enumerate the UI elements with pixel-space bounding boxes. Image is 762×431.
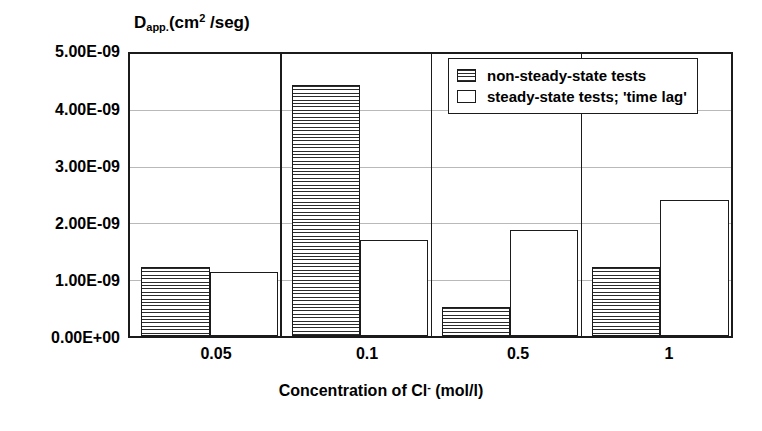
legend-item-non-steady-state: non-steady-state tests — [457, 65, 687, 86]
bar-0.5-steady-state — [510, 230, 578, 336]
y-axis-title-mid: (cm — [169, 13, 199, 32]
bar-0.1-steady-state — [360, 240, 428, 336]
y-tick-label-2: 2.00E-09 — [12, 215, 120, 233]
legend-item-steady-state: steady-state tests; 'time lag' — [457, 86, 687, 107]
category-separator — [431, 54, 433, 336]
bar-1-steady-state — [660, 200, 728, 336]
y-tick-label-3: 3.00E-09 — [12, 158, 120, 176]
x-axis-title: Concentration of Cl- (mol/l) — [0, 381, 762, 400]
bar-chart: Dapp.(cm2 /seg) 5.00E-09 4.00E-09 3.00E-… — [0, 0, 762, 431]
bar-0.1-non-steady-state — [292, 85, 360, 336]
y-tick-label-4: 4.00E-09 — [12, 101, 120, 119]
x-tick-label-0: 0.05 — [141, 345, 291, 363]
bar-0.5-non-steady-state — [442, 307, 510, 336]
x-axis-title-tail: (mol/l) — [431, 382, 483, 399]
y-axis-title-subscript: app. — [146, 21, 169, 33]
x-axis-title-lead: Concentration of Cl — [279, 382, 427, 399]
y-tick-label-0: 0.00E+00 — [12, 329, 120, 347]
bar-0.05-non-steady-state — [141, 267, 209, 336]
legend-swatch-plain-icon — [457, 90, 476, 103]
y-tick-label-5: 5.00E-09 — [12, 43, 120, 61]
y-axis-title-base: D — [134, 13, 146, 32]
legend-swatch-striped-icon — [457, 69, 476, 82]
legend: non-steady-state tests steady-state test… — [448, 58, 698, 114]
x-tick-label-2: 0.5 — [443, 345, 593, 363]
y-axis-title: Dapp.(cm2 /seg) — [134, 12, 250, 33]
y-tick-label-1: 1.00E-09 — [12, 272, 120, 290]
bar-0.05-steady-state — [210, 272, 278, 336]
y-axis-tick-labels: 5.00E-09 4.00E-09 3.00E-09 2.00E-09 1.00… — [8, 0, 120, 431]
legend-label-non-steady-state: non-steady-state tests — [487, 67, 646, 84]
legend-label-steady-state: steady-state tests; 'time lag' — [487, 88, 687, 105]
bar-1-non-steady-state — [592, 267, 660, 336]
category-separator — [280, 54, 282, 336]
x-tick-label-3: 1 — [594, 345, 744, 363]
x-tick-label-1: 0.1 — [292, 345, 442, 363]
y-axis-title-tail: /seg) — [205, 13, 249, 32]
